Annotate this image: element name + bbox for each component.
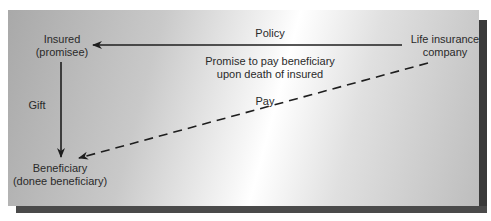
- node-insurer: Life insurance company: [400, 33, 490, 59]
- node-insurer-name: Life insurance: [400, 33, 490, 46]
- promise-line-1: Promise to pay beneficiary: [190, 55, 350, 68]
- edge-label-pay: Pay: [245, 95, 285, 108]
- edge-label-promise: Promise to pay beneficiary upon death of…: [190, 55, 350, 81]
- node-insured-name: Insured: [27, 33, 97, 46]
- node-insurer-name-2: company: [400, 46, 490, 59]
- node-beneficiary: Beneficiary (donee beneficiary): [10, 162, 110, 188]
- node-insured-role: (promisee): [27, 46, 97, 59]
- node-insured: Insured (promisee): [27, 33, 97, 59]
- edge-label-policy: Policy: [240, 27, 300, 40]
- node-beneficiary-role: (donee beneficiary): [10, 175, 110, 188]
- node-beneficiary-name: Beneficiary: [10, 162, 110, 175]
- edge-label-gift: Gift: [22, 99, 52, 112]
- promise-line-2: upon death of insured: [190, 68, 350, 81]
